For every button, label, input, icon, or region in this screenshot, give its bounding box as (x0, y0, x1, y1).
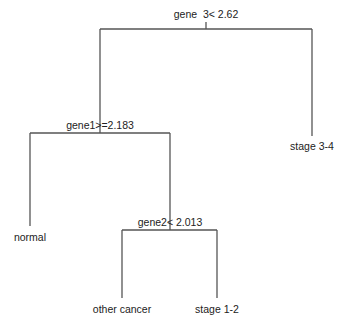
node-root-split: gene 3< 2.62 (100, 8, 312, 136)
decision-tree: gene 3< 2.62 gene1>=2.183 gene2< 2.013 n… (0, 0, 342, 327)
node-gene1-split: gene1>=2.183 (30, 119, 170, 230)
leaf-label-other-cancer: other cancer (93, 303, 152, 315)
leaf-label-stage-3-4: stage 3-4 (290, 140, 334, 152)
gene1-split-label: gene1>=2.183 (66, 119, 134, 131)
leaf-label-stage-1-2: stage 1-2 (195, 303, 239, 315)
root-split-label: gene 3< 2.62 (174, 8, 239, 20)
leaf-label-normal: normal (14, 231, 46, 243)
gene2-split-label: gene2< 2.013 (138, 216, 203, 228)
